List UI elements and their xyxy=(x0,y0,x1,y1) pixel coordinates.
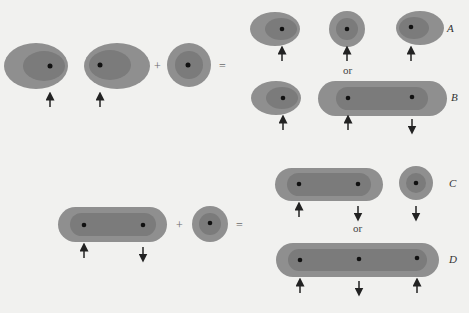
reactant-ellipse-1 xyxy=(4,43,68,107)
plus-sign: + xyxy=(176,218,183,232)
label-b: B xyxy=(451,91,458,103)
plus-sign: + xyxy=(154,59,161,73)
label-a: A xyxy=(446,22,454,34)
spin-pairing-diagram: + = A or xyxy=(0,0,469,313)
top-reactants: + = xyxy=(4,43,226,107)
nucleus-dot xyxy=(186,63,191,68)
product-capsule-3-nuclei xyxy=(276,243,439,293)
label-c: C xyxy=(449,177,457,189)
or-text: or xyxy=(353,222,363,234)
nucleus-dot xyxy=(48,64,53,69)
or-text: or xyxy=(343,64,353,76)
product-ellipse xyxy=(250,12,300,61)
nucleus-dot xyxy=(98,63,103,68)
reactant-circle xyxy=(167,43,211,87)
product-ellipse xyxy=(396,11,444,61)
outcome-d: D xyxy=(276,243,457,293)
reactant-circle xyxy=(192,206,228,242)
label-d: D xyxy=(448,253,457,265)
product-capsule-2-nuclei xyxy=(318,81,447,130)
outcome-b: B xyxy=(251,81,458,130)
equals-sign: = xyxy=(219,59,226,73)
product-circle xyxy=(329,11,365,61)
product-capsule-2-nuclei xyxy=(275,168,383,217)
equals-sign: = xyxy=(236,218,243,232)
product-circle xyxy=(399,166,433,217)
bottom-reactants: + = xyxy=(58,206,243,258)
reactant-ellipse-2 xyxy=(84,43,150,107)
product-ellipse xyxy=(251,81,301,130)
outcome-a: A xyxy=(250,11,454,61)
reactant-capsule-2-nuclei xyxy=(58,207,167,258)
outcome-c: C xyxy=(275,166,457,217)
